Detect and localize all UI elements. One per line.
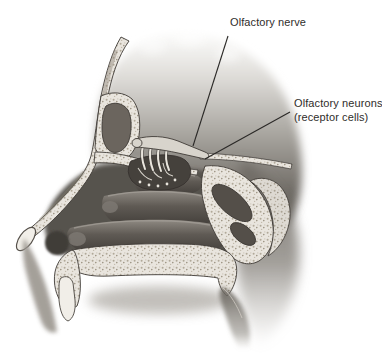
anatomical-illustration (0, 0, 382, 355)
olfactory-neurons-label-line2: (receptor cells) (294, 110, 382, 124)
nasal-vestibule-shadow (45, 231, 69, 255)
sub-palate-shadow (88, 286, 232, 314)
middle-concha-front-knob (102, 201, 118, 213)
frontal-sinus-cavity (102, 103, 131, 152)
olfactory-neurons-label-line1: Olfactory neurons (294, 97, 382, 109)
inferior-concha-front-knob (68, 232, 86, 246)
olfactory-neurons-label: Olfactory neurons (receptor cells) (294, 96, 382, 124)
figure-nasal-cavity-sagittal-section: Olfactory nerve Olfactory neurons (recep… (0, 0, 382, 355)
olfactory-nerve-label: Olfactory nerve (230, 15, 306, 29)
olfactory-bulb-knob (132, 139, 142, 148)
incisor-tooth (59, 277, 75, 321)
